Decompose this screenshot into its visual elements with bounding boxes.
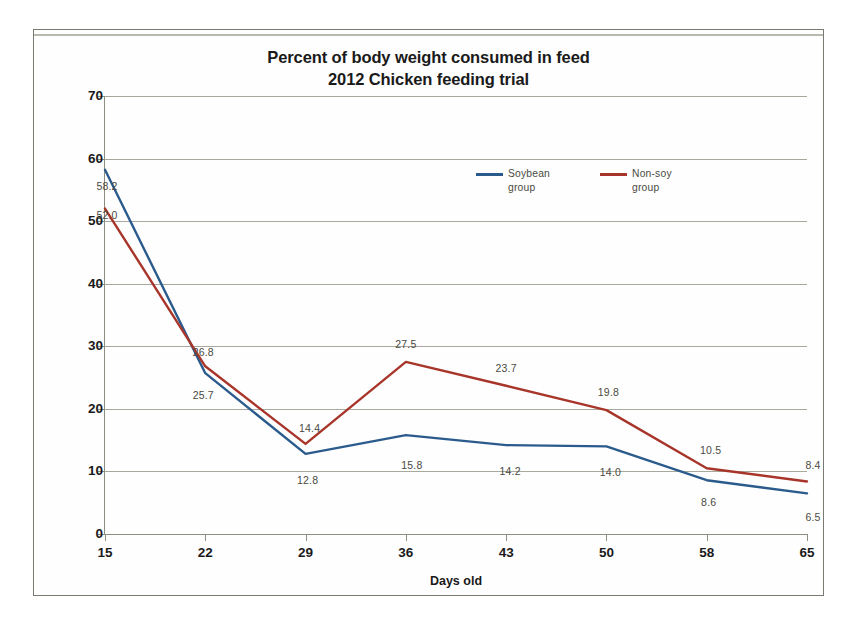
x-axis-tick <box>606 534 607 541</box>
y-axis-tick-label: 60 <box>43 151 103 166</box>
data-point-label: 14.4 <box>299 422 320 434</box>
chart-title-line2: 2012 Chicken feeding trial <box>33 69 824 91</box>
x-axis-title: Days old <box>105 574 807 588</box>
data-point-label: 15.8 <box>401 459 422 471</box>
x-axis-tick-label: 29 <box>276 545 336 560</box>
x-axis-tick-label: 43 <box>476 545 536 560</box>
data-point-label: 12.8 <box>297 474 318 486</box>
chart-title-line1: Percent of body weight consumed in feed <box>267 48 589 66</box>
x-axis-tick-label: 65 <box>777 545 837 560</box>
series-lines <box>105 96 807 534</box>
data-point-label: 27.5 <box>395 338 416 350</box>
data-point-label: 8.6 <box>701 496 716 508</box>
page-root: Percent of body weight consumed in feed … <box>0 0 863 627</box>
data-point-label: 19.8 <box>598 386 619 398</box>
x-axis-tick <box>807 534 808 541</box>
chart: Percent of body weight consumed in feed … <box>33 29 824 596</box>
data-point-label: 8.4 <box>805 459 820 471</box>
data-point-label: 25.7 <box>193 389 214 401</box>
legend-swatch-icon <box>476 173 503 176</box>
data-point-label: 6.5 <box>805 511 820 523</box>
y-axis-tick-label: 0 <box>43 526 103 541</box>
x-axis-tick-label: 22 <box>175 545 235 560</box>
x-axis-tick <box>406 534 407 541</box>
legend-swatch-icon <box>600 173 627 176</box>
legend: SoybeangroupNon-soygroup <box>476 167 680 195</box>
x-axis-tick-label: 36 <box>376 545 436 560</box>
data-point-label: 52.0 <box>96 209 117 221</box>
data-point-label: 14.2 <box>500 465 521 477</box>
data-point-label: 23.7 <box>496 362 517 374</box>
chart-title: Percent of body weight consumed in feed … <box>33 47 824 91</box>
y-axis-tick-label: 10 <box>43 463 103 478</box>
x-axis-tick <box>707 534 708 541</box>
y-axis-tick-label: 70 <box>43 88 103 103</box>
y-axis-tick-label: 20 <box>43 401 103 416</box>
y-axis-tick-label: 30 <box>43 338 103 353</box>
x-axis-tick <box>205 534 206 541</box>
x-axis-tick-label: 15 <box>75 545 135 560</box>
data-point-label: 10.5 <box>700 444 721 456</box>
y-axis-tick-label: 50 <box>43 213 103 228</box>
legend-label: Non-soygroup <box>632 167 680 195</box>
x-axis-tick-label: 50 <box>576 545 636 560</box>
x-axis-tick-label: 58 <box>677 545 737 560</box>
legend-label: Soybeangroup <box>508 167 556 195</box>
x-axis-tick <box>506 534 507 541</box>
plot-area: 010203040506070 1522293643505865 58.225.… <box>105 96 807 534</box>
y-axis-tick-label: 40 <box>43 276 103 291</box>
data-point-label: 26.8 <box>193 346 214 358</box>
gridline <box>105 534 807 535</box>
data-point-label: 14.0 <box>600 466 621 478</box>
legend-item: Non-soygroup <box>600 167 680 195</box>
x-axis-tick <box>105 534 106 541</box>
x-axis-tick <box>306 534 307 541</box>
data-point-label: 58.2 <box>96 180 117 192</box>
legend-item: Soybeangroup <box>476 167 556 195</box>
